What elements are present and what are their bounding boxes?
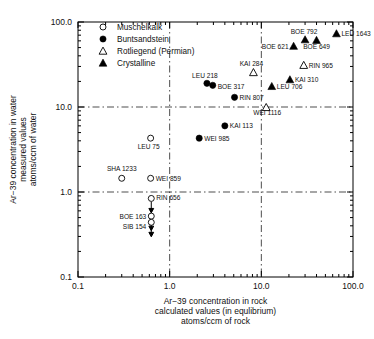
data-point-label: BOE 621 [262,43,289,50]
data-point-label: BOE 317 [218,83,245,90]
x-axis-title-line: Ar−39 concentration in rock [164,296,268,306]
data-point-marker [300,61,308,68]
upper-limit-arrow-head [149,208,154,213]
data-point-marker [148,213,154,219]
data-point-marker [290,42,298,49]
y-tick-label: 10.0 [55,102,72,112]
legend: MuschelkalkBuntsandsteinRotliegend (Perm… [99,23,195,68]
x-axis-title-line: atoms/ccm of rock [181,316,251,326]
data-point-marker [148,195,154,201]
legend-marker-filled-circle [100,36,106,42]
y-tick-label: 100.0 [51,17,73,27]
data-point-marker [231,94,237,100]
y-tick-label: 0.1 [60,272,72,282]
x-tick-label: 1.0 [164,281,176,291]
x-tick-label: 0.1 [72,281,84,291]
y-axis-title-line: atoms/ccm of water [28,112,38,186]
data-point-label: BOE 792 [291,28,318,35]
data-point-label: BOE 649 [303,43,330,50]
data-point-marker [148,219,154,225]
legend-label: Rotliegend (Permian) [117,47,195,56]
upper-limit-arrow-head [149,232,154,237]
legend-label: Muschelkalk [117,23,163,32]
data-point-label: KAI 113 [230,122,253,129]
y-axis-title: Ar−39 concentration in watermeasured val… [8,95,38,204]
data-point-marker [301,36,309,43]
data-point-label: BOE 163 [120,213,147,220]
data-point-marker [222,123,228,129]
x-axis-title: Ar−39 concentration in rockcalculated va… [155,296,277,326]
data-point-label: SHA 1233 [107,165,137,172]
x-tick-labels: 0.11.010.0100.0 [72,281,364,291]
data-point-label: KAI 310 [295,76,319,83]
data-point-marker [148,135,154,141]
data-point-marker [119,175,125,181]
legend-marker-open-circle [100,24,106,30]
data-point-label: RIN 656 [156,194,181,201]
y-tick-label: 1.0 [60,187,72,197]
x-tick-label: 100.0 [342,281,364,291]
data-point-marker [210,82,216,88]
legend-label: Buntsandstein [117,35,169,44]
y-axis-title-line: measured values [18,117,28,182]
data-point-label: SIB 154 [123,223,147,230]
data-point-label: KAI 284 [240,60,264,67]
data-point-label: LEU 218 [192,72,218,79]
data-point-label: WEI 1116 [253,109,281,116]
data-point-label: LEU 75 [138,143,160,150]
legend-marker-filled-triangle [99,59,107,66]
legend-label: Crystalline [117,59,156,68]
data-point-marker [204,80,210,86]
data-point-marker [250,69,258,76]
data-point-marker [196,135,202,141]
chart-canvas: 0.11.010.0100.0 100.010.01.00.1 Ar−39 co… [0,0,374,339]
x-axis-title-line: calculated values (in equlibrium) [155,306,277,316]
legend-marker-open-triangle [99,47,107,54]
data-point-marker [286,76,294,83]
data-point-label: RIN 965 [309,62,334,69]
data-point-label: LEU 706 [277,83,303,90]
y-axis-title-line: Ar−39 concentration in water [8,95,18,204]
data-point-marker [333,30,341,37]
data-point-label: WEI 859 [156,175,182,182]
data-point-marker [268,82,276,89]
x-tick-label: 10.0 [253,281,270,291]
y-tick-labels: 100.010.01.00.1 [51,17,73,282]
data-point-marker [148,175,154,181]
data-point-label: WEI 985 [204,135,230,142]
data-point-label: LEU 1643 [341,30,371,37]
ar39-scatter-chart: 0.11.010.0100.0 100.010.01.00.1 Ar−39 co… [0,0,374,339]
point-labels: LEU 75SHA 1233WEI 859RIN 656BOE 163SIB 1… [107,28,371,230]
data-point-label: RIN 807 [240,94,265,101]
